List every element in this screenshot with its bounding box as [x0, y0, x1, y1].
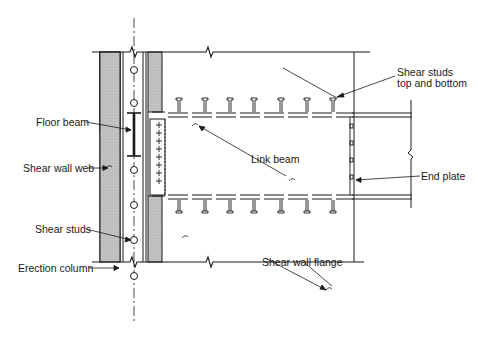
link-beam-embed-plate	[150, 119, 165, 195]
link-beam-connection-diagram: Floor beam Shear wall web Shear studs Er…	[0, 0, 478, 340]
label-shear-studs-top-2: top and bottom	[397, 77, 467, 89]
top-shear-studs	[176, 98, 336, 112]
label-shear-wall-web: Shear wall web	[23, 162, 94, 174]
label-link-beam: Link beam	[251, 153, 300, 165]
link-beam-bottom-flange	[152, 195, 412, 199]
label-shear-wall-flange: Shear wall flange	[262, 256, 343, 268]
bottom-shear-studs	[176, 200, 336, 213]
link-beam-break-line	[408, 100, 413, 208]
label-shear-studs: Shear studs	[35, 223, 91, 235]
label-erection-column: Erection column	[18, 262, 93, 274]
end-plate	[350, 117, 353, 195]
link-beam-top-flange	[152, 112, 412, 117]
label-floor-beam: Floor beam	[36, 116, 89, 128]
label-end-plate: End plate	[421, 170, 466, 182]
floor-beam	[127, 113, 141, 156]
